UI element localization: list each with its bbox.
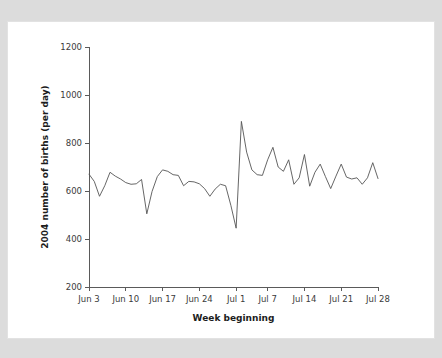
- y-axis: 20040060080010001200: [60, 42, 89, 292]
- x-tick-label: Jul 21: [328, 294, 353, 304]
- births-series-line: [89, 121, 378, 228]
- y-tick-group: 20040060080010001200: [60, 42, 89, 292]
- x-tick-label: Jul 28: [365, 294, 390, 304]
- y-tick-label: 200: [66, 282, 82, 292]
- x-tick-label: Jun 10: [111, 294, 139, 304]
- x-tick-label: Jun 3: [77, 294, 99, 304]
- x-axis: Jun 3Jun 10Jun 17Jun 24Jul 1Jul 7Jul 14J…: [77, 287, 390, 304]
- x-tick-label: Jun 24: [185, 294, 213, 304]
- births-line-chart: 20040060080010001200 Jun 3Jun 10Jun 17Ju…: [8, 22, 434, 338]
- y-tick-label: 1200: [60, 42, 82, 52]
- x-tick-label: Jul 7: [257, 294, 276, 304]
- x-tick-label: Jul 1: [226, 294, 245, 304]
- y-tick-label: 800: [66, 138, 82, 148]
- y-tick-label: 600: [66, 186, 82, 196]
- y-tick-label: 1000: [60, 90, 82, 100]
- figure-root: 20040060080010001200 Jun 3Jun 10Jun 17Ju…: [0, 0, 442, 358]
- x-axis-title: Week beginning: [193, 313, 275, 323]
- y-axis-title: 2004 number of births (per day): [40, 85, 50, 248]
- chart-canvas: 20040060080010001200 Jun 3Jun 10Jun 17Ju…: [8, 22, 434, 338]
- y-tick-label: 400: [66, 234, 82, 244]
- x-tick-group: Jun 3Jun 10Jun 17Jun 24Jul 1Jul 7Jul 14J…: [77, 287, 390, 304]
- x-tick-label: Jul 14: [292, 294, 317, 304]
- chart-page-sheet: 20040060080010001200 Jun 3Jun 10Jun 17Ju…: [8, 22, 434, 338]
- x-tick-label: Jun 17: [148, 294, 176, 304]
- data-series-group: [89, 121, 378, 228]
